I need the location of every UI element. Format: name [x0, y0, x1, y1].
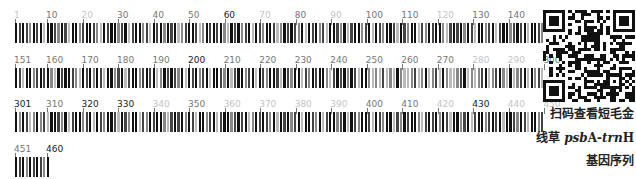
base-bar	[499, 68, 501, 88]
base-bar	[100, 112, 102, 132]
base-bar	[347, 112, 349, 132]
base-bar	[75, 23, 77, 43]
base-bar	[36, 112, 38, 132]
base-bar	[425, 112, 427, 132]
base-bar	[128, 68, 130, 88]
base-bar	[234, 23, 236, 43]
base-bar	[121, 23, 123, 43]
base-bar	[478, 68, 480, 88]
base-bar	[230, 68, 232, 88]
base-bar	[163, 23, 165, 43]
base-bar	[502, 112, 504, 132]
base-bar	[245, 112, 247, 132]
base-bar	[520, 68, 522, 88]
base-bar	[460, 68, 462, 88]
position-label: 170	[82, 55, 99, 65]
base-bar	[485, 112, 487, 132]
base-bar	[220, 68, 222, 88]
base-bar	[481, 23, 483, 43]
base-bar	[163, 112, 165, 132]
position-label: 220	[259, 55, 276, 65]
base-bar	[350, 68, 352, 88]
base-bar	[294, 23, 296, 43]
base-bar	[107, 68, 109, 88]
base-bar	[40, 23, 42, 43]
base-bar	[502, 68, 504, 88]
base-bar	[146, 68, 148, 88]
base-bar	[160, 112, 162, 132]
gene-name-part: psb	[564, 131, 588, 145]
base-bar	[202, 23, 204, 43]
base-bar	[418, 23, 420, 43]
sequence-bars	[15, 23, 545, 43]
base-bar	[43, 68, 45, 88]
base-bar	[40, 112, 42, 132]
base-bar	[442, 112, 444, 132]
base-bar	[492, 112, 494, 132]
position-label: 320	[82, 99, 99, 109]
base-bar	[495, 23, 497, 43]
base-bar	[411, 112, 413, 132]
base-bar	[195, 23, 197, 43]
base-bar	[471, 68, 473, 88]
base-bar	[421, 112, 423, 132]
base-bar	[26, 68, 28, 88]
base-bar	[22, 112, 24, 132]
base-bar	[478, 23, 480, 43]
position-label: 451	[14, 144, 31, 154]
qr-code-icon[interactable]	[543, 10, 635, 102]
base-bar	[135, 23, 137, 43]
caption-line-1: 扫码查看短毛金	[550, 104, 634, 121]
base-bar	[453, 68, 455, 88]
base-bar	[358, 23, 360, 43]
base-bar	[266, 23, 268, 43]
base-bar	[502, 23, 504, 43]
position-label: 380	[295, 99, 312, 109]
base-bar	[230, 23, 232, 43]
base-bar	[103, 112, 105, 132]
position-label: 230	[295, 55, 312, 65]
base-bar	[298, 68, 300, 88]
base-bar	[361, 23, 363, 43]
base-bar	[82, 68, 84, 88]
base-bar	[439, 68, 441, 88]
base-bar	[107, 23, 109, 43]
base-bar	[326, 112, 328, 132]
base-bar	[298, 23, 300, 43]
barcode-row: 1102030405060708090100110120130140150	[15, 10, 548, 20]
base-bar	[407, 68, 409, 88]
position-label: 250	[366, 55, 383, 65]
base-bar	[19, 112, 21, 132]
base-bar	[358, 112, 360, 132]
base-bar	[262, 112, 264, 132]
base-bar	[110, 68, 112, 88]
base-bar	[322, 23, 324, 43]
position-label: 460	[46, 144, 63, 154]
position-label: 390	[330, 99, 347, 109]
base-bar	[414, 23, 416, 43]
base-bar	[50, 23, 52, 43]
base-bar	[513, 112, 515, 132]
base-bar	[114, 68, 116, 88]
base-bar	[142, 23, 144, 43]
base-bar	[132, 23, 134, 43]
base-bar	[333, 23, 335, 43]
position-label: 410	[401, 99, 418, 109]
base-bar	[15, 23, 17, 43]
base-bar	[499, 23, 501, 43]
base-bar	[520, 112, 522, 132]
base-bar	[389, 112, 391, 132]
base-bar	[375, 112, 377, 132]
base-bar	[57, 112, 59, 132]
base-bar	[213, 112, 215, 132]
base-bar	[50, 68, 52, 88]
base-bar	[393, 23, 395, 43]
base-bar	[393, 112, 395, 132]
base-bar	[365, 23, 367, 43]
position-ruler: 451460	[15, 144, 548, 154]
base-bar	[478, 112, 480, 132]
base-bar	[273, 68, 275, 88]
base-bar	[19, 68, 21, 88]
base-bar	[47, 112, 49, 132]
base-bar	[283, 23, 285, 43]
